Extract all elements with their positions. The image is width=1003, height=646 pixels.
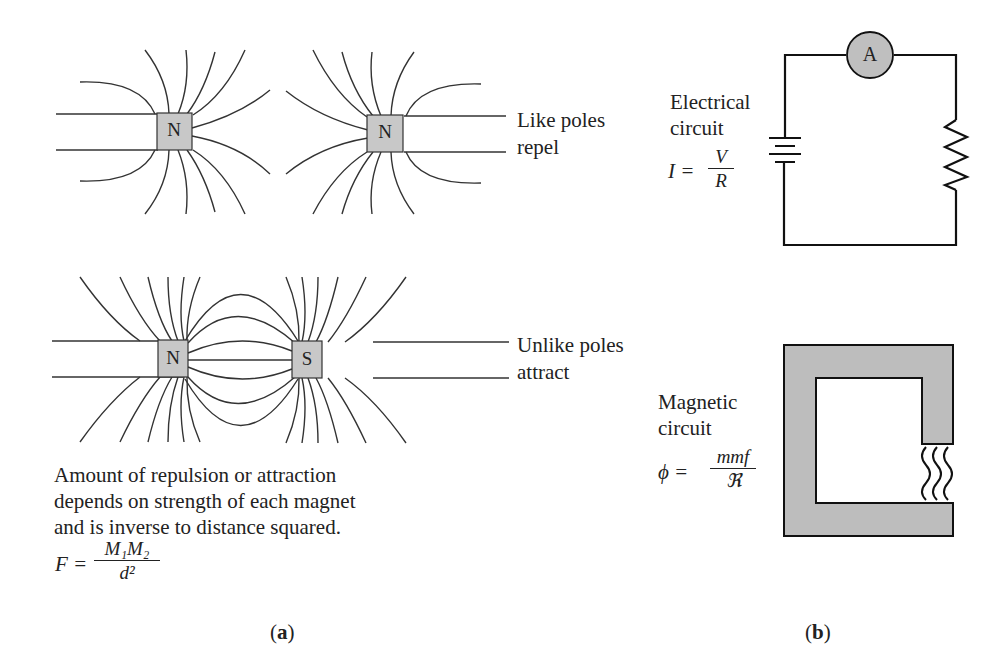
electrical-circuit-title-line2: circuit [670, 116, 724, 140]
flux-formula-lhs: ϕ = [658, 460, 688, 484]
unlike-poles-field-lines [52, 277, 509, 443]
magnetic-circuit-title-line1: Magnetic [658, 390, 737, 414]
like-poles-caption-line1: Like poles [517, 108, 605, 132]
force-formula-lhs: F = [55, 552, 87, 576]
ohms-law-lhs: I = [668, 159, 694, 183]
pole-label-n1: N [159, 119, 189, 141]
air-gap-flux-icon [922, 447, 952, 500]
unlike-poles-caption-line2: attract [517, 360, 569, 384]
ohms-law-numerator: V [715, 146, 727, 167]
flux-formula-fraction: mmf ℜ [710, 446, 756, 491]
flux-formula-numerator: mmf [717, 446, 750, 467]
description-line2: depends on strength of each magnet [54, 489, 356, 513]
like-poles-caption-line2: repel [517, 135, 559, 159]
panel-a-label: a [277, 620, 288, 644]
pole-label-n3: N [158, 347, 188, 369]
force-formula-fraction: M₁M₂ d² [94, 538, 160, 583]
force-formula-numerator: M₁M₂ [105, 538, 150, 559]
description-line3: and is inverse to distance squared. [54, 515, 341, 539]
force-formula-denominator: d² [119, 562, 134, 583]
panel-a-caption: (a) [270, 620, 295, 645]
fraction-bar [710, 468, 756, 469]
electrical-circuit [769, 55, 967, 245]
fraction-bar [94, 560, 160, 561]
electrical-circuit-title-line1: Electrical [670, 90, 750, 114]
description-line1: Amount of repulsion or attraction [54, 463, 336, 487]
magnetic-core [784, 345, 953, 536]
ohms-law-fraction: V R [708, 146, 734, 191]
ammeter-label: A [855, 43, 885, 66]
panel-b-caption: (b) [805, 620, 831, 645]
pole-label-s: S [292, 348, 322, 370]
unlike-poles-caption-line1: Unlike poles [517, 333, 624, 357]
ohms-law-denominator: R [715, 170, 727, 191]
panel-b-label: b [812, 620, 824, 644]
like-poles-field-lines [56, 50, 506, 214]
flux-formula-denominator: ℜ [726, 470, 741, 491]
magnetic-circuit-title-line2: circuit [658, 416, 712, 440]
fraction-bar [708, 168, 734, 169]
pole-label-n2: N [370, 121, 400, 143]
